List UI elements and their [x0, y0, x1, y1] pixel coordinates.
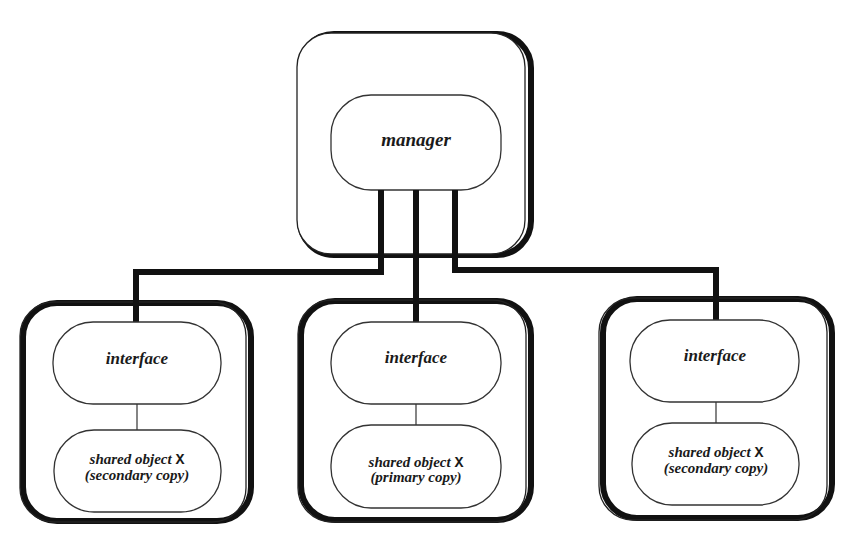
manager-label: manager [381, 129, 451, 150]
left-interface-label: interface [106, 349, 169, 368]
left-interface-box: interface [53, 322, 221, 404]
middle-shared-object-box: shared object X (primary copy) [331, 425, 501, 508]
left-shared-object-box: shared object X (secondary copy) [54, 430, 221, 512]
diagram-canvas: manager interface shared object X (secon… [0, 0, 855, 543]
middle-interface-box: interface [331, 322, 501, 404]
middle-interface-label: interface [385, 348, 448, 367]
right-object-line2: (secondary copy) [664, 460, 769, 477]
right-shared-object-box: shared object X (secondary copy) [632, 423, 799, 505]
right-interface-box: interface [630, 320, 799, 402]
middle-object-line2: (primary copy) [370, 469, 461, 486]
right-interface-label: interface [684, 346, 747, 365]
manager-box: manager [331, 95, 501, 190]
left-object-line2: (secondary copy) [85, 467, 190, 484]
